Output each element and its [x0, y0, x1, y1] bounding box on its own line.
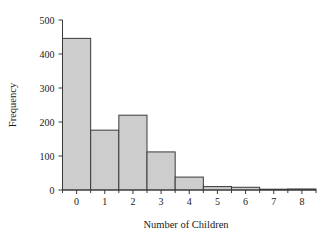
- x-tick-label: 5: [215, 196, 220, 207]
- y-tick-label: 400: [40, 49, 55, 60]
- x-tick-label: 4: [187, 196, 192, 207]
- histogram-plot: 012345678 0100200300400500 Number of Chi…: [0, 0, 336, 237]
- x-tick-label: 3: [159, 196, 164, 207]
- x-axis-title: Number of Children: [143, 219, 229, 230]
- x-tick-label: 7: [271, 196, 276, 207]
- x-tick-label: 2: [130, 196, 135, 207]
- y-axis-title: Frequency: [7, 82, 18, 127]
- histogram-bar: [119, 115, 147, 190]
- y-tick-label: 200: [40, 117, 55, 128]
- y-tick-label: 0: [50, 185, 55, 196]
- x-tick-label: 6: [243, 196, 248, 207]
- histogram-bar: [175, 177, 203, 190]
- x-tick-labels: 012345678: [74, 196, 304, 207]
- y-tick-label: 100: [40, 151, 55, 162]
- bars-group: [63, 38, 317, 190]
- histogram-figure: 012345678 0100200300400500 Number of Chi…: [0, 0, 336, 237]
- y-tick-labels: 0100200300400500: [40, 15, 55, 196]
- histogram-bar: [63, 38, 91, 190]
- y-tick-label: 500: [40, 15, 55, 26]
- x-tick-label: 0: [74, 196, 79, 207]
- y-tick-label: 300: [40, 83, 55, 94]
- x-tick-label: 1: [102, 196, 107, 207]
- histogram-bar: [203, 187, 231, 190]
- x-tick-label: 8: [299, 196, 304, 207]
- histogram-bar: [147, 152, 175, 190]
- histogram-bar: [91, 130, 119, 190]
